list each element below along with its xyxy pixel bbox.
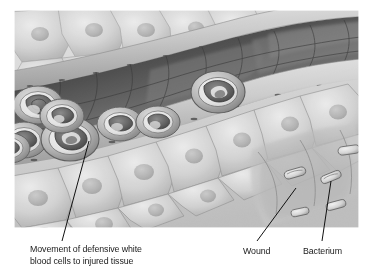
illustration-body — [0, 0, 372, 248]
grain-overlay — [14, 10, 359, 228]
label-white-blood-cells-line2: blood cells to injured tissue — [30, 255, 133, 266]
label-white-blood-cells: Movement of defensive whiteblood cells t… — [30, 243, 142, 266]
label-wound: Wound — [243, 245, 270, 257]
figure-illustration — [0, 0, 375, 271]
label-bacterium: Bacterium — [303, 245, 342, 257]
label-white-blood-cells-line1: Movement of defensive white — [30, 243, 142, 254]
